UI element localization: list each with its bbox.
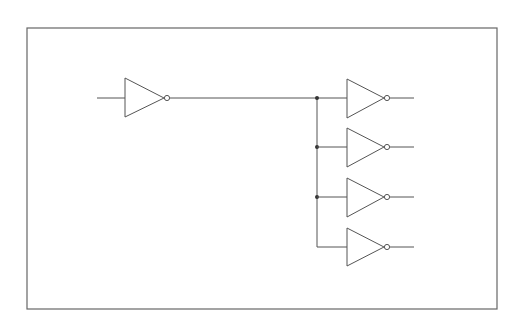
inverter-load-3 [315, 178, 414, 217]
inversion-bubble-icon [384, 194, 389, 199]
inverter-load-2 [315, 128, 414, 167]
junction-dot-icon [315, 96, 319, 100]
circuit-diagram [0, 0, 521, 319]
inverter-triangle-icon [347, 79, 384, 118]
inverter-driver [97, 78, 170, 117]
inversion-bubble-icon [384, 95, 389, 100]
inverter-triangle-icon [125, 78, 164, 117]
inversion-bubble-icon [384, 144, 389, 149]
inverter-triangle-icon [347, 128, 384, 167]
inverter-triangle-icon [347, 178, 384, 217]
inverter-load-4 [317, 228, 414, 266]
inversion-bubble-icon [164, 95, 169, 100]
inverter-triangle-icon [347, 228, 384, 266]
diagram-frame [27, 28, 497, 309]
inversion-bubble-icon [384, 244, 389, 249]
